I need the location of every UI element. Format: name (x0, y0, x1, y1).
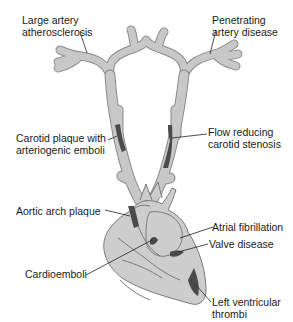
label-large-artery-line1: Large artery (22, 14, 93, 26)
label-valve-disease-line1: Valve disease (209, 238, 274, 250)
label-penetrating-artery-line2: artery disease (212, 26, 278, 38)
label-carotid-plaque: Carotid plaque with arteriogenic emboli (16, 132, 106, 156)
label-aortic-arch: Aortic arch plaque (16, 205, 101, 217)
label-atrial-fib: Atrial fibrillation (212, 221, 283, 233)
label-left-ventricular-line1: Left ventricular (212, 296, 281, 308)
label-large-artery-line2: atherosclerosis (22, 26, 93, 38)
label-carotid-plaque-line1: Carotid plaque with (16, 132, 106, 144)
label-large-artery: Large artery atherosclerosis (22, 14, 93, 38)
label-left-ventricular: Left ventricular thrombi (212, 296, 281, 320)
label-flow-reducing: Flow reducing carotid stenosis (208, 126, 281, 150)
label-carotid-plaque-line2: arteriogenic emboli (16, 144, 106, 156)
label-cardioemboli: Cardioemboli (25, 268, 87, 280)
label-atrial-fib-line1: Atrial fibrillation (212, 221, 283, 233)
label-left-ventricular-line2: thrombi (212, 308, 281, 320)
label-flow-reducing-line2: carotid stenosis (208, 138, 281, 150)
label-cardioemboli-line1: Cardioemboli (25, 268, 87, 280)
stroke-sources-diagram: Large artery atherosclerosis Penetrating… (0, 0, 293, 322)
label-valve-disease: Valve disease (209, 238, 274, 250)
label-penetrating-artery-line1: Penetrating (212, 14, 278, 26)
label-penetrating-artery: Penetrating artery disease (212, 14, 278, 38)
label-aortic-arch-line1: Aortic arch plaque (16, 205, 101, 217)
label-flow-reducing-line1: Flow reducing (208, 126, 281, 138)
